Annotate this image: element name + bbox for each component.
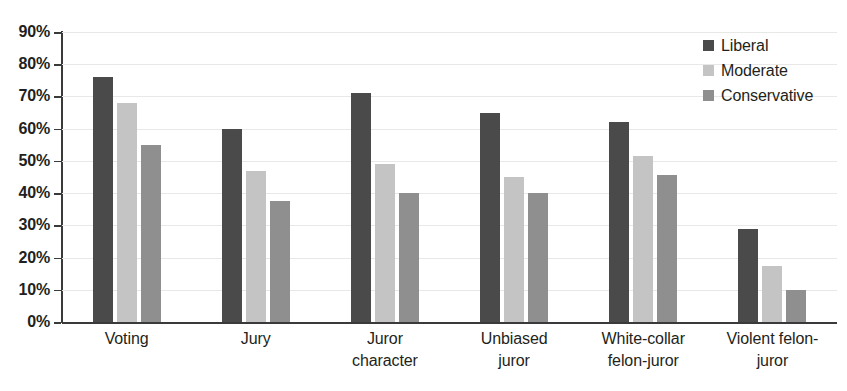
bar-moderate	[504, 177, 524, 322]
x-axis-category-label-line: felon-juror	[579, 350, 708, 372]
bar-group	[579, 32, 708, 322]
y-axis-tick	[54, 258, 61, 260]
y-axis-tick	[54, 225, 61, 227]
y-axis-tick-label: 70%	[2, 87, 50, 105]
y-axis-tick	[54, 161, 61, 163]
y-axis-tick-label: 50%	[2, 152, 50, 170]
bar-liberal	[351, 93, 371, 322]
x-axis-category-label-line: Jury	[191, 328, 320, 350]
bar-group	[191, 32, 320, 322]
y-axis-tick	[54, 322, 61, 324]
x-axis-category-label: Jurorcharacter	[320, 328, 449, 372]
x-axis-labels: VotingJuryJurorcharacterUnbiasedjurorWhi…	[62, 328, 837, 388]
bar-liberal	[222, 129, 242, 322]
chart-legend: LiberalModerateConservative	[703, 36, 813, 105]
y-axis-tick-label: 60%	[2, 120, 50, 138]
y-axis-tick-label: 30%	[2, 216, 50, 234]
bar-chart: 0%10%20%30%40%50%60%70%80%90% VotingJury…	[0, 0, 847, 391]
bar-moderate	[633, 156, 653, 322]
bar-group	[320, 32, 449, 322]
y-axis-tick-label: 0%	[2, 313, 50, 331]
x-axis-category-label-line: Juror	[320, 328, 449, 350]
x-axis-category-label-line: Unbiased	[450, 328, 579, 350]
bar-conservative	[141, 145, 161, 322]
y-axis-tick	[54, 32, 61, 34]
x-axis-category-label: Unbiasedjuror	[450, 328, 579, 372]
bar-conservative	[657, 175, 677, 322]
y-axis-tick-label: 90%	[2, 23, 50, 41]
y-axis-tick	[54, 64, 61, 66]
x-axis-category-label-line: Voting	[62, 328, 191, 350]
bar-liberal	[738, 229, 758, 322]
bar-moderate	[762, 266, 782, 322]
y-axis-labels: 0%10%20%30%40%50%60%70%80%90%	[0, 0, 50, 391]
bar-group	[450, 32, 579, 322]
legend-item-moderate[interactable]: Moderate	[703, 61, 813, 80]
y-axis-tick-label: 20%	[2, 249, 50, 267]
y-axis-tick-label: 80%	[2, 55, 50, 73]
legend-label: Moderate	[721, 61, 788, 80]
bar-moderate	[117, 103, 137, 322]
x-axis-category-label: Voting	[62, 328, 191, 350]
x-axis-category-label: Violent felon-juror	[708, 328, 837, 372]
legend-swatch-icon	[703, 65, 714, 76]
x-axis-category-label-line: juror	[708, 350, 837, 372]
y-axis-tick	[54, 193, 61, 195]
bar-conservative	[528, 193, 548, 322]
legend-item-conservative[interactable]: Conservative	[703, 86, 813, 105]
x-axis-category-label-line: Violent felon-	[708, 328, 837, 350]
bar-conservative	[270, 201, 290, 322]
legend-swatch-icon	[703, 40, 714, 51]
bar-moderate	[375, 164, 395, 322]
bar-conservative	[399, 193, 419, 322]
legend-label: Conservative	[721, 86, 813, 105]
y-axis-tick-label: 10%	[2, 281, 50, 299]
y-axis-tick	[54, 129, 61, 131]
y-axis-tick	[54, 290, 61, 292]
legend-item-liberal[interactable]: Liberal	[703, 36, 813, 55]
bar-group	[62, 32, 191, 322]
bar-liberal	[480, 113, 500, 322]
legend-swatch-icon	[703, 90, 714, 101]
y-axis-tick-label: 40%	[2, 184, 50, 202]
x-axis-baseline	[62, 322, 837, 324]
bar-liberal	[93, 77, 113, 322]
x-axis-category-label: White-collarfelon-juror	[579, 328, 708, 372]
y-axis-tick	[54, 96, 61, 98]
bar-conservative	[786, 290, 806, 322]
bar-liberal	[609, 122, 629, 322]
x-axis-category-label: Jury	[191, 328, 320, 350]
x-axis-category-label-line: juror	[450, 350, 579, 372]
x-axis-category-label-line: character	[320, 350, 449, 372]
x-axis-category-label-line: White-collar	[579, 328, 708, 350]
bar-moderate	[246, 171, 266, 322]
legend-label: Liberal	[721, 36, 768, 55]
